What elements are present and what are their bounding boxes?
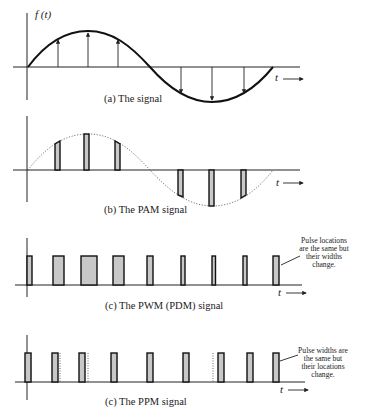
pulse-modulation-figure: f (t) t (a) The signal t (b) The PAM sig… (0, 0, 366, 417)
note-leader-line (280, 355, 298, 361)
caption-c-pwm: (c) The PWM (PDM) signal (105, 300, 223, 312)
panel-b-pam: t (b) The PAM signal (13, 116, 303, 216)
caption-b: (b) The PAM signal (104, 204, 187, 216)
x-axis-label: t (280, 383, 284, 395)
caption-a: (a) The signal (104, 93, 162, 105)
ppm-pulses (25, 353, 279, 382)
pwm-note: Pulse locations are the same but their w… (299, 236, 349, 269)
panel-a-signal: f (t) t (a) The signal (13, 8, 303, 105)
note-leader-line (281, 256, 300, 265)
panel-c-pwm: Pulse locations are the same but their w… (15, 236, 350, 312)
panel-d-ppm: Pulse widths are the same but their loca… (15, 335, 349, 408)
caption-d-ppm: (c) The PPM signal (105, 396, 187, 408)
ppm-note: Pulse widths are the same but their loca… (298, 346, 348, 379)
y-axis-label: f (t) (35, 8, 52, 21)
x-axis-label: t (278, 286, 282, 298)
x-axis-label: t (275, 71, 279, 83)
pwm-pulses (27, 256, 279, 285)
x-axis-label: t (276, 176, 280, 188)
svg-text:change.: change. (312, 260, 336, 269)
svg-text:change.: change. (311, 370, 335, 379)
